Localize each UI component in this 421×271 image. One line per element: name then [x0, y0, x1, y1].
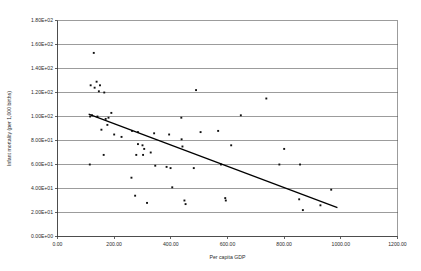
data-point — [89, 164, 91, 166]
y-axis-title: Infant mortality (per 1,000 births) — [6, 91, 12, 166]
data-point — [93, 52, 95, 54]
y-tick-label: 1.80E+02 — [31, 17, 53, 23]
data-point — [146, 202, 148, 204]
data-point — [200, 131, 202, 133]
data-point — [166, 166, 168, 168]
chart-container: 0.00E+002.00E+014.00E+016.00E+018.00E+01… — [0, 0, 421, 271]
data-point — [182, 146, 184, 148]
trendline-group — [89, 114, 338, 208]
plot-frame — [58, 21, 398, 237]
data-point — [137, 143, 139, 145]
data-point — [100, 129, 102, 131]
gridlines-group — [58, 21, 398, 237]
data-point — [150, 152, 152, 154]
data-point — [103, 154, 105, 156]
data-point — [98, 90, 100, 92]
data-point — [89, 116, 91, 118]
x-tick-label: 200.00 — [106, 241, 122, 247]
data-point — [283, 148, 285, 150]
y-tick-label: 0.00E+00 — [31, 233, 53, 239]
y-tick-label: 1.20E+02 — [31, 89, 53, 95]
data-point — [99, 84, 101, 86]
data-point — [135, 154, 137, 156]
y-axis-ticks: 0.00E+002.00E+014.00E+016.00E+018.00E+01… — [31, 17, 57, 239]
x-tick-label: 1200.00 — [388, 241, 407, 247]
data-point — [298, 198, 300, 200]
data-point — [225, 200, 227, 202]
data-point — [90, 84, 92, 86]
data-point — [171, 186, 173, 188]
data-point — [121, 136, 123, 138]
data-point — [278, 164, 280, 166]
data-point — [94, 87, 96, 89]
y-tick-label: 8.00E+01 — [31, 137, 53, 143]
data-point — [106, 124, 108, 126]
data-point — [217, 130, 219, 132]
data-point — [168, 134, 170, 136]
data-point — [113, 134, 115, 136]
y-tick-label: 1.60E+02 — [31, 41, 53, 47]
data-point — [299, 164, 301, 166]
x-tick-label: 600.00 — [220, 241, 236, 247]
data-point — [319, 204, 321, 206]
data-point — [142, 144, 144, 146]
data-point — [224, 197, 226, 199]
data-point — [131, 177, 133, 179]
data-point — [240, 114, 242, 116]
data-point — [265, 98, 267, 100]
data-point — [110, 112, 112, 114]
data-point — [105, 118, 107, 120]
x-tick-label: 400.00 — [163, 241, 179, 247]
data-points-group — [89, 52, 332, 211]
data-point — [330, 189, 332, 191]
y-tick-label: 1.00E+02 — [31, 113, 53, 119]
data-point — [181, 138, 183, 140]
data-point — [230, 144, 232, 146]
data-point — [153, 132, 155, 134]
data-point — [302, 209, 304, 211]
scatter-plot: 0.00E+002.00E+014.00E+016.00E+018.00E+01… — [0, 0, 421, 271]
x-tick-label: 1000.00 — [332, 241, 351, 247]
x-axis-title: Per capita GDP — [209, 254, 246, 260]
data-point — [154, 165, 156, 167]
data-point — [134, 195, 136, 197]
data-point — [180, 117, 182, 119]
y-tick-label: 4.00E+01 — [31, 185, 53, 191]
data-point — [96, 81, 98, 83]
x-tick-label: 0.00 — [53, 241, 63, 247]
data-point — [193, 167, 195, 169]
x-tick-label: 800.00 — [276, 241, 292, 247]
data-point — [170, 167, 172, 169]
y-tick-label: 6.00E+01 — [31, 161, 53, 167]
trendline — [89, 114, 338, 208]
data-point — [183, 200, 185, 202]
data-point — [103, 92, 105, 94]
y-tick-label: 1.40E+02 — [31, 65, 53, 71]
data-point — [142, 154, 144, 156]
data-point — [195, 89, 197, 91]
y-tick-label: 2.00E+01 — [31, 209, 53, 215]
data-point — [185, 203, 187, 205]
data-point — [108, 117, 110, 119]
data-point — [143, 148, 145, 150]
x-axis-ticks: 0.00200.00400.00600.00800.001000.001200.… — [53, 237, 407, 248]
